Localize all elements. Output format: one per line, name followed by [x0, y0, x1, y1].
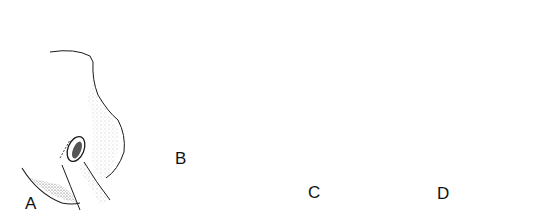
surgical-illustration: A B C D [0, 0, 542, 222]
illustration-drawing [0, 0, 542, 222]
panel-a-drawing [22, 51, 124, 210]
panel-label-a: A [25, 195, 36, 212]
panel-label-d: D [437, 185, 449, 202]
panel-label-b: B [175, 150, 186, 167]
panel-label-c: C [308, 184, 320, 201]
